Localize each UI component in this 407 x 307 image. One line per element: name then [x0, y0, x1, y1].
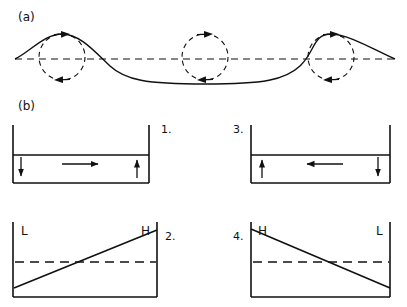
orbit-bottom-arrow-left [201, 79, 213, 80]
orbit-circle [39, 34, 85, 80]
orbit-crest-left [39, 34, 85, 80]
box-4-surface-slope-line [251, 229, 390, 288]
orbit-trough-mid [182, 34, 228, 80]
box-2-surface-slope-line [14, 230, 157, 288]
panel-a-label: (a) [18, 10, 35, 24]
orbit-bottom-arrow-left [327, 79, 339, 80]
panel-b-group: (b) 1. 3. [13, 99, 390, 297]
box-4-number: 4. [233, 230, 244, 243]
box-2-left-label: L [21, 224, 28, 238]
wave-profile-curve [15, 34, 395, 84]
box-4-left-label: H [258, 224, 267, 238]
box-4-group: H L 4. [233, 222, 390, 297]
wave-orbital-diagram: (a) (b) [0, 0, 407, 307]
box-1-group: 1. [13, 123, 172, 183]
box-3-number: 3. [233, 123, 244, 136]
box-1-number: 1. [161, 123, 172, 136]
orbit-circle [308, 34, 354, 80]
orbit-top-arrow-right [54, 34, 66, 35]
box-4-right-label: L [376, 224, 383, 238]
orbit-top-arrow-right [323, 34, 335, 35]
figure-root: (a) (b) [0, 0, 407, 307]
box-2-right-label: H [141, 224, 150, 238]
box-3-group: 3. [233, 123, 390, 183]
orbit-top-arrow-right [197, 34, 209, 35]
panel-b-label: (b) [18, 99, 35, 113]
orbit-bottom-arrow-left [58, 79, 70, 80]
orbit-crest-right [308, 34, 354, 80]
panel-a-group: (a) [15, 10, 395, 84]
orbit-circle [182, 34, 228, 80]
box-2-group: L H 2. [13, 222, 176, 297]
box-2-number: 2. [165, 230, 176, 243]
